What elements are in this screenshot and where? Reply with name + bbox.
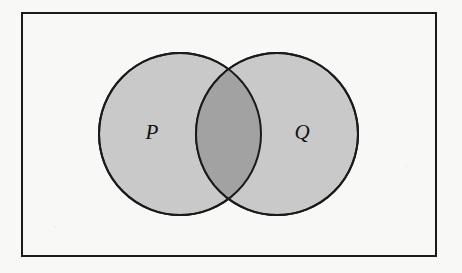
set-q-label: Q [294,120,309,144]
venn-diagram-canvas: P Q [0,0,462,273]
set-p-label: P [145,120,159,144]
venn-diagram-figure: P Q [0,0,462,273]
